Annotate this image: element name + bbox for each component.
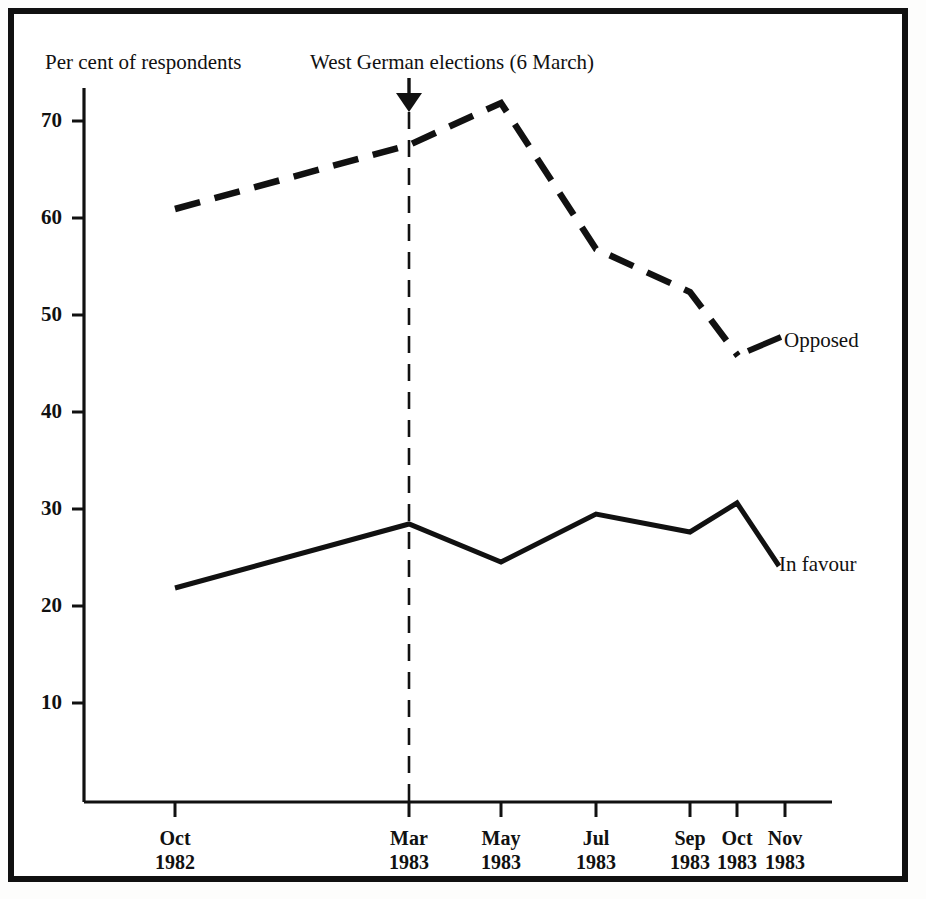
series-line-in-favour: [175, 503, 779, 588]
series-leader-opposed: [748, 337, 781, 351]
y-tick-label-70: 70: [20, 108, 62, 133]
x-tick-label-oct-1982: Oct 1982: [135, 826, 215, 875]
series-line-opposed: [175, 103, 738, 356]
x-tick-month: May: [482, 827, 521, 849]
y-tick-label-40: 40: [20, 399, 62, 424]
x-tick-year: 1983: [461, 850, 541, 874]
y-tick-label-10: 10: [20, 690, 62, 715]
x-tick-year: 1983: [745, 850, 825, 874]
y-tick-label-60: 60: [20, 205, 62, 230]
y-axis-ticks: [72, 121, 84, 703]
down-arrow-icon: [396, 93, 422, 112]
y-tick-label-20: 20: [20, 593, 62, 618]
chart-canvas: [0, 0, 926, 899]
y-tick-label-30: 30: [20, 496, 62, 521]
x-tick-month: Oct: [159, 827, 190, 849]
x-tick-label-jul-1983: Jul 1983: [556, 826, 636, 875]
x-tick-label-mar-1983: Mar 1983: [369, 826, 449, 875]
x-tick-year: 1983: [369, 850, 449, 874]
y-tick-label-50: 50: [20, 302, 62, 327]
x-tick-month: Jul: [583, 827, 610, 849]
x-tick-label-nov-1983: Nov 1983: [745, 826, 825, 875]
chart-page: Per cent of respondents West German elec…: [0, 0, 926, 899]
plot-area: Per cent of respondents West German elec…: [0, 0, 926, 899]
series-label-opposed: Opposed: [784, 328, 859, 353]
election-marker: [396, 78, 422, 812]
x-tick-label-may-1983: May 1983: [461, 826, 541, 875]
x-tick-year: 1983: [556, 850, 636, 874]
x-tick-month: Nov: [768, 827, 802, 849]
x-tick-month: Mar: [390, 827, 428, 849]
x-axis-ticks: [175, 802, 785, 817]
x-tick-year: 1982: [135, 850, 215, 874]
series-label-in-favour: In favour: [779, 552, 857, 577]
